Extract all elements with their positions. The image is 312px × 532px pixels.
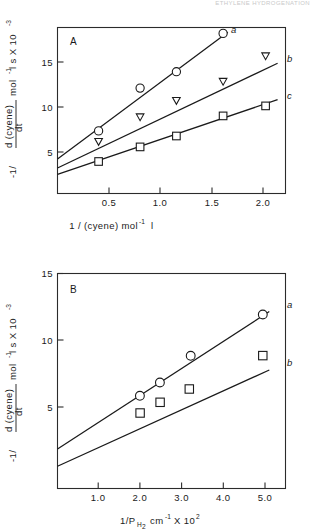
x-label-lead: 1/P (120, 515, 135, 526)
x-tick-label-1-0: 1.0 (91, 492, 106, 503)
y-tick-label-15: 15 (41, 268, 53, 279)
curve-label-a: a (231, 24, 236, 35)
x-label-sup: -1 (139, 218, 145, 225)
y-label-units-mid: l s X 10 (7, 34, 18, 69)
x-tick-label-0-5: 0.5 (102, 197, 117, 208)
x-tick-label-4-0: 4.0 (216, 492, 231, 503)
y-label-units-lead: mol (7, 363, 18, 380)
x-label-tail: X 10 (174, 515, 195, 526)
y-label-prefix: -1/ (7, 166, 18, 178)
y-label-denominator: dt (13, 123, 24, 132)
panel-b-letter: B (70, 284, 77, 295)
curve-label-b: b (287, 53, 292, 64)
data-point (186, 351, 195, 360)
curve-label-c: c (287, 90, 292, 101)
panel-b-series-b: b (58, 351, 293, 466)
x-label-tail: l (151, 220, 154, 231)
data-point (219, 112, 227, 120)
panel-b-series-a: a (58, 299, 293, 449)
x-tick-label-1-5: 1.5 (205, 197, 220, 208)
y-label-units-mid: l s X 10 (7, 318, 18, 353)
x-label-sub-2: 2 (142, 523, 146, 530)
series-b-fit-line (58, 63, 278, 168)
x-label-sup2: 2 (196, 513, 200, 520)
y-tick-label-10: 10 (41, 335, 53, 346)
x-tick-label-5-0: 5.0 (258, 492, 273, 503)
panel-b-y-ticks: 15 10 5 (41, 268, 63, 413)
panel-b-x-ticks: 1.0 2.0 3.0 4.0 5.0 (91, 483, 273, 504)
panel-a-y-axis-label: -1/ d (cyene) dt mol -1 l s X 10 -3 (3, 20, 24, 178)
y-tick-label-15: 15 (41, 57, 53, 68)
figure-container: ETHYLENE HYDROGENATION -1/ d (cyene) dt … (0, 0, 312, 532)
data-point (172, 68, 180, 76)
data-point (219, 29, 227, 37)
data-point (258, 310, 267, 319)
x-tick-label-2-0: 2.0 (133, 492, 148, 503)
panel-a-x-axis-label: 1 / (cyene) mol -1 l (69, 218, 153, 231)
data-point (95, 127, 103, 135)
y-label-units-sup2: -3 (5, 304, 12, 310)
series-a-fit-line (58, 32, 228, 159)
panel-a-y-ticks: 15 10 5 (41, 57, 63, 158)
panel-a-letter: A (70, 36, 77, 47)
y-tick-label-5: 5 (47, 402, 53, 413)
data-point (95, 139, 103, 146)
panel-a-plot-frame (58, 28, 286, 194)
y-label-units-sup2: -3 (5, 20, 12, 26)
data-point (156, 398, 164, 406)
data-point (262, 53, 270, 60)
y-label-denominator: dt (13, 407, 24, 416)
x-label-lead: 1 / (cyene) mol (69, 220, 138, 231)
data-point (173, 132, 181, 140)
x-tick-label-1-0: 1.0 (153, 197, 168, 208)
data-point (136, 143, 144, 151)
curve-label-b: b (287, 357, 292, 368)
data-point (173, 98, 181, 105)
panel-a-chart: -1/ d (cyene) dt mol -1 l s X 10 -3 15 1… (0, 0, 312, 266)
data-point (259, 351, 267, 359)
data-point (219, 78, 227, 85)
x-label-mid: cm (150, 515, 163, 526)
data-point (136, 391, 145, 400)
data-point (95, 158, 103, 166)
y-label-units-lead: mol (7, 79, 18, 96)
x-label-sup: -1 (165, 513, 171, 520)
curve-label-a: a (287, 299, 292, 310)
y-tick-label-10: 10 (41, 102, 53, 113)
x-tick-label-3-0: 3.0 (174, 492, 189, 503)
series-c-fit-line (58, 100, 278, 175)
data-point (262, 102, 270, 110)
data-point (136, 84, 144, 92)
x-tick-label-2-0: 2.0 (256, 197, 271, 208)
panel-b-y-axis-label: -1/ d (cyene) dt mol -1 l s X 10 -3 (3, 304, 24, 462)
data-point (136, 114, 144, 121)
y-tick-label-5: 5 (47, 147, 53, 158)
panel-b-chart: -1/ d (cyene) dt mol -1 l s X 10 -3 15 1… (0, 266, 312, 532)
panel-a-x-ticks: 0.5 1.0 1.5 2.0 (102, 188, 271, 209)
y-label-prefix: -1/ (7, 450, 18, 462)
data-point (185, 385, 193, 393)
data-point (156, 378, 165, 387)
panel-a-series-a: a (58, 24, 237, 159)
panel-b-plot-frame (58, 274, 286, 489)
panel-b-x-axis-label: 1/P H 2 cm -1 X 10 2 (120, 513, 200, 530)
data-point (136, 409, 144, 417)
